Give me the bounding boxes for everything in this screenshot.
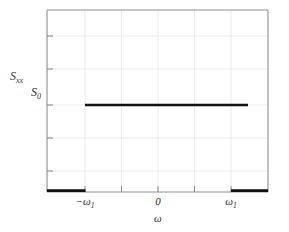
- x-tick-label-omega1: ω1: [225, 196, 237, 210]
- spectral-density-figure: [0, 0, 289, 232]
- x-tick-label-symbol: ω: [225, 195, 233, 207]
- y-axis-label: Sxx: [10, 70, 23, 85]
- x-tick-label-symbol: −ω: [76, 195, 91, 207]
- x-tick-label-zero: 0: [155, 196, 161, 207]
- x-tick-label-negative-omega1: −ω1: [76, 196, 95, 210]
- y-tick-label-subscript: 0: [37, 92, 41, 101]
- y-tick-label-s0: S0: [31, 86, 41, 101]
- x-tick-label-subscript: 1: [91, 201, 95, 210]
- figure-background: [0, 0, 289, 232]
- x-tick-label-subscript: 1: [233, 201, 237, 210]
- y-axis-label-subscript: xx: [16, 76, 23, 85]
- x-axis-label: ω: [154, 213, 162, 224]
